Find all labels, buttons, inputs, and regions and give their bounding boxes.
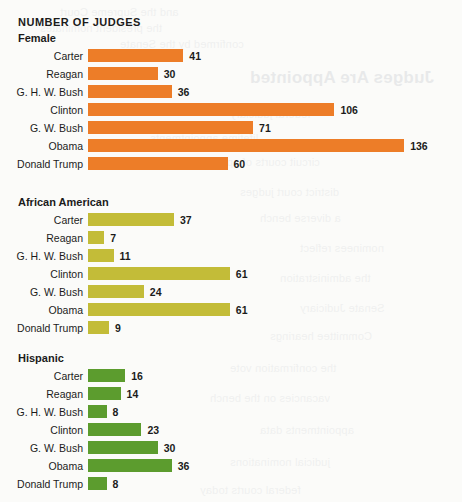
bar-row: Clinton61 xyxy=(0,266,462,284)
bar-row: G. W. Bush30 xyxy=(0,440,462,458)
bar-row: G. W. Bush24 xyxy=(0,284,462,302)
bar-and-value: 36 xyxy=(88,85,189,98)
bar-and-value: 41 xyxy=(88,49,201,62)
bar-value-label: 9 xyxy=(115,322,121,334)
bar-category-label: G. H. W. Bush xyxy=(16,406,83,418)
bar-row: G. H. W. Bush36 xyxy=(0,84,462,102)
bar-category-label: Donald Trump xyxy=(17,158,83,170)
bar-value-label: 61 xyxy=(236,268,248,280)
bar-and-value: 71 xyxy=(88,121,271,134)
bar-row: Donald Trump60 xyxy=(0,156,462,174)
bar-value-label: 23 xyxy=(147,424,159,436)
bar-category-label: Reagan xyxy=(46,388,83,400)
bar-row: Obama36 xyxy=(0,458,462,476)
bar-value-label: 8 xyxy=(113,406,119,418)
bar-and-value: 16 xyxy=(88,369,143,382)
bar-category-label: G. W. Bush xyxy=(30,442,83,454)
bar xyxy=(88,85,172,98)
bar-category-label: Reagan xyxy=(46,68,83,80)
bar-value-label: 106 xyxy=(340,104,358,116)
bar xyxy=(88,103,334,116)
bar-and-value: 14 xyxy=(88,387,138,400)
bar-value-label: 30 xyxy=(164,68,176,80)
bar-value-label: 60 xyxy=(234,158,246,170)
bar-category-label: Donald Trump xyxy=(17,478,83,490)
bar xyxy=(88,213,174,226)
bar-value-label: 30 xyxy=(164,442,176,454)
bar-value-label: 8 xyxy=(113,478,119,490)
bar-row: Carter16 xyxy=(0,368,462,386)
bar-row: Reagan14 xyxy=(0,386,462,404)
bar xyxy=(88,157,228,170)
bar-and-value: 23 xyxy=(88,423,159,436)
bar-and-value: 30 xyxy=(88,67,175,80)
bar-value-label: 71 xyxy=(259,122,271,134)
bar-category-label: Carter xyxy=(54,370,83,382)
bar-row: Carter37 xyxy=(0,212,462,230)
bar-row: Reagan30 xyxy=(0,66,462,84)
page-title: NUMBER OF JUDGES xyxy=(18,16,141,28)
bar-value-label: 14 xyxy=(127,388,139,400)
bar-category-label: Clinton xyxy=(50,424,83,436)
bar-and-value: 8 xyxy=(88,477,118,490)
bar-and-value: 136 xyxy=(88,139,428,152)
bar-value-label: 37 xyxy=(180,214,192,226)
bar-and-value: 61 xyxy=(88,303,248,316)
bar-value-label: 41 xyxy=(189,50,201,62)
bar-category-label: G. H. W. Bush xyxy=(16,250,83,262)
bar-category-label: Donald Trump xyxy=(17,322,83,334)
bar-row: Reagan7 xyxy=(0,230,462,248)
panel-title: African American xyxy=(18,196,109,208)
bar xyxy=(88,249,114,262)
bar-and-value: 9 xyxy=(88,321,121,334)
bar xyxy=(88,121,253,134)
bar-row: Clinton23 xyxy=(0,422,462,440)
bar-row: G. H. W. Bush11 xyxy=(0,248,462,266)
bar xyxy=(88,477,107,490)
chart-panel-african-american: African AmericanCarter37Reagan7G. H. W. … xyxy=(0,196,462,338)
bar-and-value: 24 xyxy=(88,285,161,298)
bar-value-label: 61 xyxy=(236,304,248,316)
bar-value-label: 24 xyxy=(150,286,162,298)
bar xyxy=(88,303,230,316)
bar xyxy=(88,231,104,244)
bar-row: Obama136 xyxy=(0,138,462,156)
bar xyxy=(88,285,144,298)
bar xyxy=(88,423,141,436)
bar xyxy=(88,387,121,400)
bar-and-value: 30 xyxy=(88,441,175,454)
panel-rows: Carter41Reagan30G. H. W. Bush36Clinton10… xyxy=(0,48,462,174)
chart-sheet: NUMBER OF JUDGES FemaleCarter41Reagan30G… xyxy=(0,0,462,502)
panel-title: Hispanic xyxy=(18,352,64,364)
bar-and-value: 8 xyxy=(88,405,118,418)
bar-category-label: Carter xyxy=(54,214,83,226)
bar-row: Obama61 xyxy=(0,302,462,320)
bar-category-label: Clinton xyxy=(50,104,83,116)
bar-category-label: G. W. Bush xyxy=(30,122,83,134)
bar-value-label: 11 xyxy=(120,250,131,262)
bar-value-label: 36 xyxy=(178,86,190,98)
bar-and-value: 61 xyxy=(88,267,248,280)
bar-and-value: 36 xyxy=(88,459,189,472)
bar-category-label: G. W. Bush xyxy=(30,286,83,298)
bar-category-label: Clinton xyxy=(50,268,83,280)
bar-value-label: 136 xyxy=(410,140,428,152)
bar-and-value: 60 xyxy=(88,157,245,170)
bar xyxy=(88,321,109,334)
panel-rows: Carter16Reagan14G. H. W. Bush8Clinton23G… xyxy=(0,368,462,494)
bar xyxy=(88,369,125,382)
bar xyxy=(88,49,183,62)
panel-rows: Carter37Reagan7G. H. W. Bush11Clinton61G… xyxy=(0,212,462,338)
bar xyxy=(88,459,172,472)
bar-and-value: 7 xyxy=(88,231,116,244)
bar-value-label: 7 xyxy=(110,232,116,244)
bar-row: G. H. W. Bush8 xyxy=(0,404,462,422)
bar-and-value: 106 xyxy=(88,103,358,116)
bar-and-value: 11 xyxy=(88,249,131,262)
bar-category-label: Obama xyxy=(49,140,83,152)
chart-panel-female: FemaleCarter41Reagan30G. H. W. Bush36Cli… xyxy=(0,32,462,174)
bar-row: G. W. Bush71 xyxy=(0,120,462,138)
bar-row: Clinton106 xyxy=(0,102,462,120)
bar-category-label: Obama xyxy=(49,304,83,316)
bar-row: Carter41 xyxy=(0,48,462,66)
